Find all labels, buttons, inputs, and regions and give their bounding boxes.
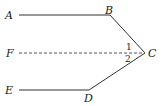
label-a: A [4, 9, 13, 22]
geometry-diagram: A B C F E D 1 2 [0, 0, 167, 106]
label-b: B [104, 4, 113, 17]
label-f: F [5, 47, 14, 60]
label-c: C [148, 47, 157, 60]
label-e: E [4, 84, 13, 97]
angle-2-label: 2 [125, 54, 131, 64]
segment-cd [89, 53, 145, 90]
angle-1-label: 1 [126, 42, 132, 52]
label-d: D [83, 92, 93, 105]
